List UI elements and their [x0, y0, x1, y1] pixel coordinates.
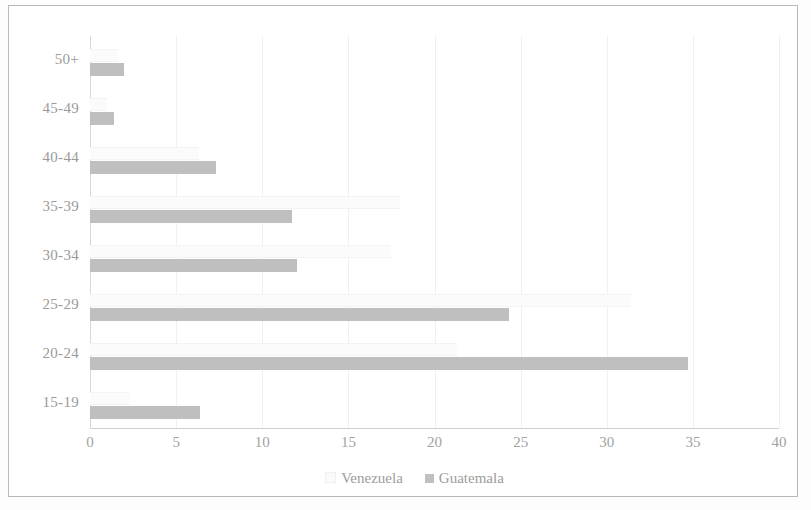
category-row [90, 232, 779, 281]
x-axis-line [90, 428, 779, 429]
legend-label: Venezuela [341, 470, 403, 487]
category-row [90, 330, 779, 379]
gridline-40 [779, 36, 780, 428]
legend-item-venezuela[interactable]: Venezuela [325, 470, 403, 487]
y-axis-tick-label: 30-34 [9, 247, 79, 264]
bar-venezuela [90, 392, 130, 405]
category-row [90, 36, 779, 85]
x-axis-tick-label: 35 [685, 434, 700, 451]
bar-guatemala [90, 259, 297, 272]
category-row [90, 134, 779, 183]
chart-page: 50+45-4940-4435-3930-3425-2920-2415-19 0… [0, 0, 811, 510]
bar-guatemala [90, 308, 509, 321]
legend-swatch-icon [425, 474, 434, 483]
x-axis-tick-label: 0 [86, 434, 94, 451]
bar-guatemala [90, 357, 688, 370]
y-axis-tick-label: 20-24 [9, 345, 79, 362]
x-axis-tick-label: 20 [427, 434, 442, 451]
bar-guatemala [90, 63, 124, 76]
x-axis-tick-label: 15 [341, 434, 356, 451]
x-axis-tick-label: 10 [255, 434, 270, 451]
chart-frame: 50+45-4940-4435-3930-3425-2920-2415-19 0… [8, 5, 798, 497]
y-axis-tick-label: 45-49 [9, 100, 79, 117]
x-axis-tick-label: 25 [513, 434, 528, 451]
bar-venezuela [90, 196, 400, 209]
bar-guatemala [90, 112, 114, 125]
bar-venezuela [90, 147, 199, 160]
legend-item-guatemala[interactable]: Guatemala [425, 470, 504, 487]
x-axis-tick-label: 40 [772, 434, 787, 451]
y-axis-tick-label: 40-44 [9, 149, 79, 166]
y-axis-tick-label: 35-39 [9, 198, 79, 215]
bar-venezuela [90, 245, 391, 258]
chart-legend: VenezuelaGuatemala [9, 469, 811, 487]
bar-guatemala [90, 406, 200, 419]
category-row [90, 281, 779, 330]
legend-swatch-icon [325, 472, 336, 483]
y-axis-labels: 50+45-4940-4435-3930-3425-2920-2415-19 [9, 36, 79, 428]
bar-venezuela [90, 98, 107, 111]
y-axis-tick-label: 50+ [9, 51, 79, 68]
legend-label: Guatemala [439, 470, 504, 487]
x-axis-tick-label: 30 [599, 434, 614, 451]
y-axis-tick-label: 25-29 [9, 296, 79, 313]
bar-guatemala [90, 210, 292, 223]
bar-guatemala [90, 161, 216, 174]
y-axis-tick-label: 15-19 [9, 394, 79, 411]
bar-venezuela [90, 343, 457, 356]
category-row [90, 183, 779, 232]
bar-venezuela [90, 294, 631, 307]
plot-area [90, 36, 779, 428]
bar-venezuela [90, 49, 118, 62]
category-row [90, 85, 779, 134]
x-axis-labels: 0510152025303540 [90, 434, 779, 456]
category-row [90, 379, 779, 428]
x-axis-tick-label: 5 [172, 434, 180, 451]
